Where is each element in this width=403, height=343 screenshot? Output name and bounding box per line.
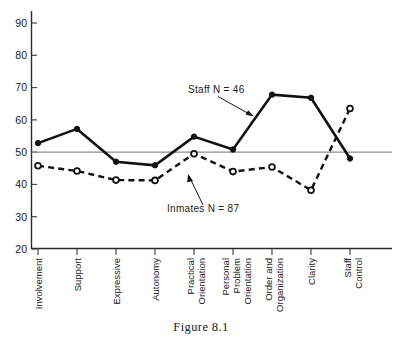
x-category-label: Control — [353, 258, 364, 289]
figure-container: 90 80 70 60 50 40 30 20 — [0, 0, 403, 343]
x-category-label: Practical — [185, 258, 196, 294]
y-tick-label: 70 — [15, 81, 27, 93]
x-category-label: Orientation — [196, 258, 207, 304]
y-tick-label: 40 — [15, 178, 27, 190]
x-category-label: Clarity — [306, 258, 317, 285]
x-category-label: Personal — [220, 258, 231, 296]
y-tick-label: 80 — [15, 49, 27, 61]
figure-caption: Figure 8.1 — [173, 320, 228, 334]
y-tick-label: 20 — [15, 243, 27, 255]
x-category-label: Autonomy — [150, 258, 161, 301]
x-category-label: Organization — [274, 258, 285, 312]
line-chart: 90 80 70 60 50 40 30 20 — [0, 0, 403, 343]
x-category-label: Support — [72, 258, 83, 292]
y-tick-label: 90 — [15, 17, 27, 29]
x-category-label: Staff — [342, 258, 353, 278]
x-category-label: Orientation — [242, 258, 253, 304]
x-category-label: Expressive — [111, 258, 122, 304]
x-category-label: Order and — [263, 258, 274, 301]
x-category-label: Problem — [231, 258, 242, 293]
y-tick-label: 60 — [15, 114, 27, 126]
y-tick-label: 30 — [15, 211, 27, 223]
annotation-staff-label: Staff N = 46 — [188, 84, 245, 95]
y-tick-label: 50 — [15, 146, 27, 158]
x-category-label: Involvement — [33, 258, 44, 310]
